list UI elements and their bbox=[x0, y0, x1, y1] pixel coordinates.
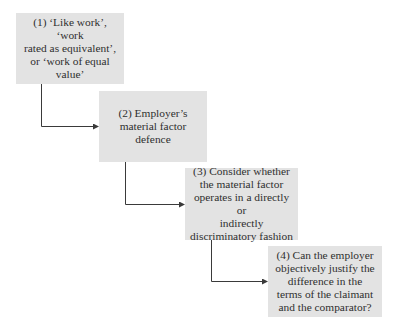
step-1-line: rated as equivalent’, bbox=[20, 42, 120, 55]
step-1-line: value’ bbox=[20, 68, 120, 81]
step-4-line: terms of the claimant bbox=[275, 288, 374, 301]
step-3-line: (3) Consider whether bbox=[189, 165, 294, 178]
step-3-line: discriminatory fashion bbox=[189, 230, 294, 243]
step-4-text: (4) Can the employer objectively justify… bbox=[275, 249, 374, 314]
step-4-objective-justification-box: (4) Can the employer objectively justify… bbox=[268, 246, 382, 317]
step-3-discrimination-box: (3) Consider whether the material factor… bbox=[185, 168, 298, 240]
step-1-like-work-box: (1) ‘Like work’, ‘work rated as equivale… bbox=[16, 13, 124, 84]
step-2-text: (2) Employer’s material factor defence bbox=[118, 107, 187, 146]
step-2-material-factor-defence-box: (2) Employer’s material factor defence bbox=[99, 91, 207, 162]
connector-1-to-2 bbox=[42, 84, 99, 127]
step-3-line: the material factor bbox=[189, 178, 294, 191]
step-2-line: material factor bbox=[118, 120, 187, 133]
connector-2-to-3 bbox=[126, 162, 185, 205]
connector-3-to-4 bbox=[212, 240, 268, 282]
step-4-line: difference in the bbox=[275, 275, 374, 288]
step-2-line: defence bbox=[118, 133, 187, 146]
step-3-line: operates in a directly or bbox=[189, 191, 294, 217]
step-1-line: or ‘work of equal bbox=[20, 55, 120, 68]
step-4-line: and the comparator? bbox=[275, 301, 374, 314]
step-4-line: objectively justify the bbox=[275, 262, 374, 275]
step-4-line: (4) Can the employer bbox=[275, 249, 374, 262]
step-2-line: (2) Employer’s bbox=[118, 107, 187, 120]
step-1-text: (1) ‘Like work’, ‘work rated as equivale… bbox=[20, 16, 120, 81]
step-3-text: (3) Consider whether the material factor… bbox=[189, 165, 294, 243]
step-3-line: indirectly bbox=[189, 217, 294, 230]
step-1-line: (1) ‘Like work’, ‘work bbox=[20, 16, 120, 42]
